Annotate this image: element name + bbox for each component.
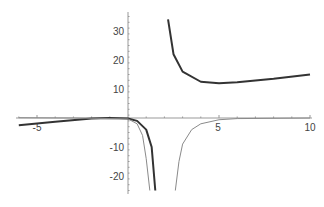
ticks (19, 17, 310, 191)
tick-labels: -5 5 10 30 20 10 -10 -20 (33, 26, 316, 182)
curves (19, 19, 310, 190)
chart: -5 5 10 30 20 10 -10 -20 (0, 0, 324, 207)
y-tick-label: 20 (113, 55, 125, 66)
y-tick-label: 10 (113, 84, 125, 95)
x-tick-label: 10 (304, 122, 316, 133)
y-tick-label: 30 (113, 26, 125, 37)
y-tick-label: -20 (110, 171, 125, 182)
series-gray-curve (175, 118, 310, 191)
series-dark-curve (168, 19, 310, 83)
x-tick-label: 5 (215, 122, 221, 133)
y-tick-label: -10 (110, 142, 125, 153)
axes (16, 12, 312, 194)
